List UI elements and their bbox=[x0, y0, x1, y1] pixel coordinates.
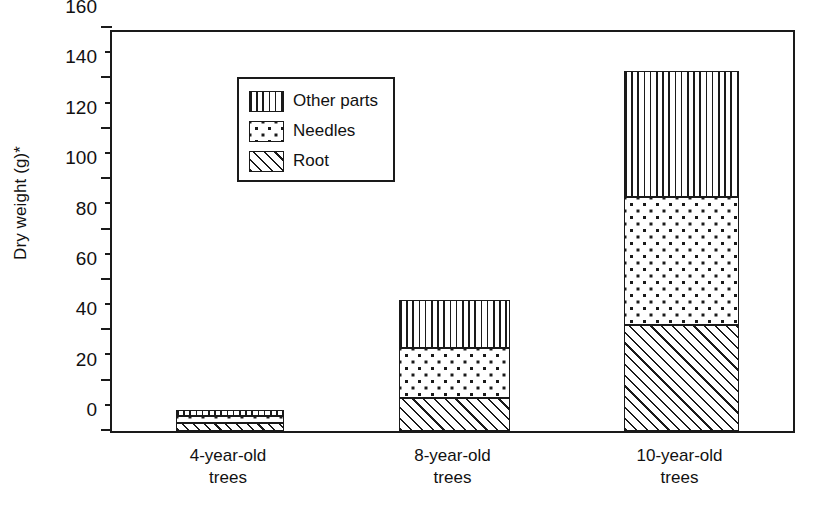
legend-label-needles: Needles bbox=[293, 121, 355, 141]
legend-item-needles: Needles bbox=[249, 116, 393, 146]
y-tick-label: 160 bbox=[37, 0, 97, 18]
bar-segment-needles bbox=[624, 197, 739, 325]
y-tick-minor bbox=[105, 253, 112, 255]
y-tick-major bbox=[101, 76, 112, 78]
legend-item-root: Root bbox=[249, 146, 393, 176]
bar-segment-other-parts bbox=[399, 300, 510, 348]
legend-label-other-parts: Other parts bbox=[293, 91, 378, 111]
y-tick-label: 40 bbox=[37, 298, 97, 320]
x-axis-label: 8-year-oldtrees bbox=[414, 445, 491, 489]
x-axis-label: 4-year-oldtrees bbox=[190, 445, 267, 489]
bar-segment-root bbox=[399, 398, 510, 431]
x-label-line: trees bbox=[190, 467, 267, 489]
y-tick-major bbox=[101, 278, 112, 280]
bar-segment-root bbox=[176, 423, 284, 431]
y-tick-minor bbox=[105, 404, 112, 406]
stacked-bar bbox=[399, 300, 510, 431]
y-tick-label: 0 bbox=[37, 399, 97, 421]
x-label-line: trees bbox=[414, 467, 491, 489]
y-tick-label: 100 bbox=[37, 147, 97, 169]
bar-segment-needles bbox=[176, 416, 284, 424]
y-tick-minor bbox=[105, 102, 112, 104]
bar-segment-other-parts bbox=[176, 410, 284, 416]
chart-figure: Dry weight (g)* 020406080100120140160 Ot… bbox=[0, 0, 835, 511]
y-tick-minor bbox=[105, 51, 112, 53]
y-tick-major bbox=[101, 328, 112, 330]
y-tick-minor bbox=[105, 303, 112, 305]
legend-swatch-vertical-lines-icon bbox=[249, 91, 284, 112]
stacked-bar bbox=[624, 71, 739, 431]
y-tick-major bbox=[101, 228, 112, 230]
y-tick-major bbox=[101, 177, 112, 179]
y-tick-major bbox=[101, 26, 112, 28]
y-axis-title: Dry weight (g)* bbox=[11, 78, 31, 328]
legend-label-root: Root bbox=[293, 151, 329, 171]
y-tick-major bbox=[101, 429, 112, 431]
x-axis-label: 10-year-oldtrees bbox=[637, 445, 723, 489]
bar-segment-needles bbox=[399, 348, 510, 398]
x-label-line: 8-year-old bbox=[414, 445, 491, 467]
legend-item-other-parts: Other parts bbox=[249, 86, 393, 116]
legend-swatch-hatch-icon bbox=[249, 151, 284, 172]
y-tick-label: 20 bbox=[37, 349, 97, 371]
bar-segment-root bbox=[624, 325, 739, 431]
y-tick-label: 80 bbox=[37, 198, 97, 220]
x-label-line: 4-year-old bbox=[190, 445, 267, 467]
y-tick-minor bbox=[105, 353, 112, 355]
stacked-bar bbox=[176, 410, 284, 431]
legend-swatch-dots-icon bbox=[249, 121, 284, 142]
bar-segment-other-parts bbox=[624, 71, 739, 197]
y-tick-minor bbox=[105, 152, 112, 154]
y-tick-label: 60 bbox=[37, 248, 97, 270]
x-label-line: 10-year-old bbox=[637, 445, 723, 467]
y-tick-label: 140 bbox=[37, 46, 97, 68]
y-tick-minor bbox=[105, 202, 112, 204]
y-tick-label: 120 bbox=[37, 97, 97, 119]
y-tick-major bbox=[101, 379, 112, 381]
y-tick-major bbox=[101, 127, 112, 129]
plot-area: 020406080100120140160 Other parts Needle… bbox=[110, 30, 795, 433]
legend: Other parts Needles Root bbox=[237, 77, 395, 182]
x-label-line: trees bbox=[637, 467, 723, 489]
